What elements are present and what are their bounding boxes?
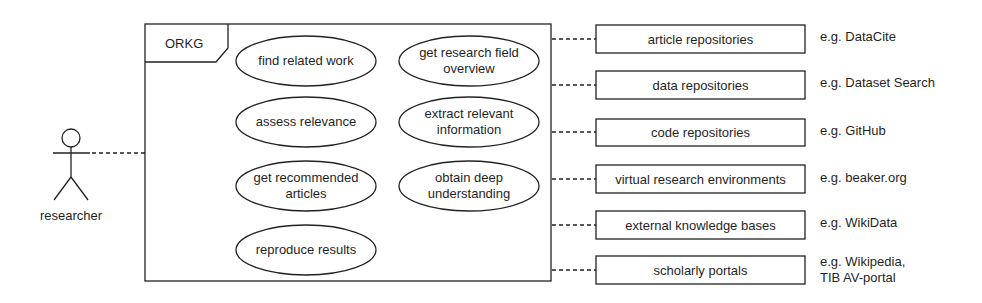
example-beaker: e.g. beaker.org	[820, 170, 907, 186]
actor-leg-right	[71, 177, 88, 200]
actor-label: researcher	[31, 208, 111, 224]
example-dataset-search: e.g. Dataset Search	[820, 75, 935, 91]
example-github: e.g. GitHub	[820, 123, 886, 139]
example-wikidata: e.g. WikiData	[820, 215, 897, 231]
external-system-external-knowledge-bases: external knowledge bases	[596, 211, 805, 239]
use-case-get-research-field-overview: get research field overview	[399, 36, 539, 86]
external-system-virtual-research-environments: virtual research environments	[596, 165, 805, 193]
use-case-get-recommended-articles: get recommended articles	[236, 161, 376, 211]
use-case-reproduce-results: reproduce results	[236, 225, 376, 275]
external-system-scholarly-portals: scholarly portals	[596, 256, 805, 284]
use-case-obtain-deep-understanding: obtain deep understanding	[399, 161, 539, 211]
actor-leg-left	[54, 177, 71, 200]
external-system-code-repositories: code repositories	[596, 119, 805, 146]
example-wikipedia-tib: e.g. Wikipedia, TIB AV-portal	[820, 254, 905, 286]
use-case-assess-relevance: assess relevance	[236, 97, 376, 147]
external-system-data-repositories: data repositories	[596, 71, 805, 99]
system-name: ORKG	[165, 36, 203, 52]
external-system-article-repositories: article repositories	[596, 25, 805, 53]
use-case-extract-relevant-information: extract relevant information	[399, 97, 539, 147]
use-case-find-related-work: find related work	[236, 36, 376, 86]
example-datacite: e.g. DataCite	[820, 29, 896, 45]
actor-head-icon	[62, 129, 80, 147]
